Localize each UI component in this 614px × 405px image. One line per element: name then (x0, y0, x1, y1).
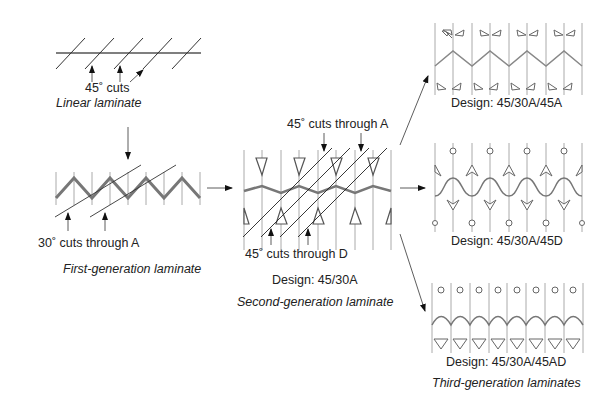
design-45-30a-45a (435, 23, 582, 95)
design-ad-label: Design: 45/30A/45AD (446, 355, 566, 369)
second-gen-caption: Second-generation laminate (237, 295, 393, 309)
first-gen-cuts-label: 30˚ cuts through A (38, 236, 139, 250)
second-gen-bottom-cuts-label: 45˚ cuts through D (245, 247, 348, 261)
linear-cuts-label: 45˚ cuts (85, 81, 129, 95)
design-45-30a-45ad (432, 283, 583, 353)
design-d-label: Design: 45/30A/45D (451, 234, 563, 248)
second-gen-top-cuts-label: 45˚ cuts through A (287, 117, 388, 131)
linear-laminate (56, 38, 201, 82)
third-gen-caption: Third-generation laminates (432, 376, 581, 390)
first-generation-laminate (55, 165, 200, 231)
first-gen-caption: First-generation laminate (63, 262, 201, 276)
design-45-30a-45d (433, 143, 585, 232)
second-gen-design: Design: 45/30A (272, 273, 357, 287)
laminate-diagram (0, 0, 614, 405)
linear-caption: Linear laminate (56, 96, 141, 110)
second-generation-laminate (243, 133, 391, 250)
arrows-second-to-third (400, 76, 428, 311)
design-a-label: Design: 45/30A/45A (451, 96, 562, 110)
